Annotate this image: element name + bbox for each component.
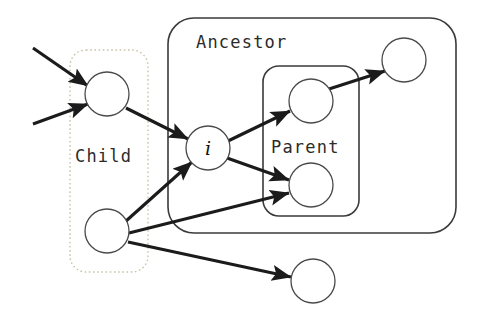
node-parent-bottom[interactable] bbox=[289, 163, 333, 207]
group-label-parent: Parent bbox=[271, 137, 340, 157]
edge-e-cb-pb bbox=[129, 193, 289, 233]
node-outside-bottom[interactable] bbox=[291, 259, 335, 303]
edge-e-cb-i bbox=[126, 162, 192, 221]
group-label-ancestor: Ancestor bbox=[196, 32, 287, 52]
node-label-node-i: i bbox=[205, 137, 211, 159]
node-child-top[interactable] bbox=[85, 72, 129, 116]
edge-in-1 bbox=[33, 48, 88, 86]
diagram-svg: i ChildAncestorParent bbox=[0, 0, 481, 317]
edge-e-i-pb bbox=[227, 158, 289, 180]
node-child-bottom[interactable] bbox=[85, 209, 129, 253]
nodes-layer: i bbox=[85, 38, 426, 303]
edge-e-ct-i bbox=[126, 108, 188, 139]
group-label-child: Child bbox=[75, 146, 132, 166]
edge-e-cb-ob bbox=[128, 242, 291, 277]
node-ancestor-far[interactable] bbox=[382, 38, 426, 82]
edge-in-2 bbox=[33, 104, 88, 124]
node-parent-top[interactable] bbox=[289, 79, 333, 123]
diagram-canvas: i ChildAncestorParent bbox=[0, 0, 481, 317]
